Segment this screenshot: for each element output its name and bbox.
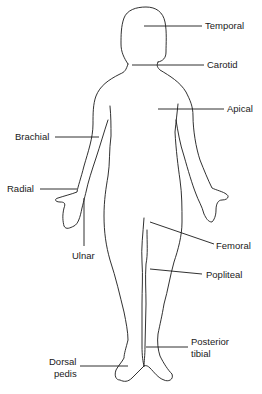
inner-left-leg-outline [142, 218, 144, 366]
label-femoral: Femoral [216, 240, 251, 251]
right-torso-outline [144, 104, 182, 381]
label-brachial: Brachial [15, 131, 49, 142]
right-shoulder-arm-outline [157, 62, 228, 222]
label-posterior-tibial-line2: tibial [191, 348, 211, 359]
label-ulnar: Ulnar [72, 250, 95, 261]
label-carotid: Carotid [207, 59, 238, 70]
label-popliteal: Popliteal [206, 269, 242, 280]
label-temporal: Temporal [205, 20, 244, 31]
label-dorsal-pedis-line1: Dorsal [49, 356, 76, 367]
label-dorsal-pedis-line2: pedis [54, 368, 77, 379]
label-radial: Radial [7, 183, 34, 194]
left-torso-outline [104, 106, 144, 381]
label-posterior-tibial-line1: Posterior [191, 336, 229, 347]
leader-popliteal [150, 269, 202, 274]
label-apical: Apical [227, 103, 253, 114]
inner-right-leg-outline [144, 230, 147, 366]
left-shoulder-arm-outline [56, 64, 128, 228]
head-outline [121, 7, 166, 64]
